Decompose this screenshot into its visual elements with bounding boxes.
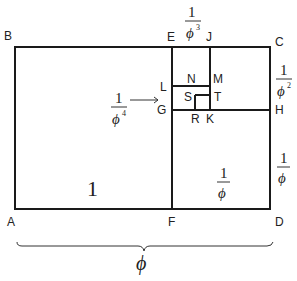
svg-text:3: 3 [196,23,200,32]
point-b: B [4,29,12,43]
point-e: E [167,30,175,44]
svg-text:ϕ: ϕ [278,170,286,186]
svg-text:1: 1 [280,62,288,78]
svg-text:1: 1 [188,4,196,20]
point-h: H [275,103,284,117]
fraction-1-over-phi: 1 ϕ [217,165,230,201]
point-g: G [157,103,166,117]
svg-text:ϕ: ϕ [218,185,226,201]
point-m: M [213,72,223,86]
point-t: T [214,90,222,104]
outer-rectangle [15,47,270,209]
point-l: L [160,80,167,94]
point-c: C [275,35,284,49]
svg-text:2: 2 [287,81,291,90]
svg-text:1: 1 [280,150,288,166]
svg-text:ϕ: ϕ [112,111,120,127]
fraction-1-over-phi-cubed: 1 ϕ 3 [185,4,201,41]
label-phi-width: ϕ [136,252,146,275]
brace-icon [17,242,273,251]
point-f: F [168,215,175,229]
point-r: R [191,112,200,126]
golden-rectangle-diagram: B E J C L N M S T G H R K A F D 1 1 ϕ 1 … [0,0,297,281]
svg-text:1: 1 [115,90,123,106]
point-j: J [206,30,212,44]
point-d: D [275,215,284,229]
fraction-1-over-phi-side: 1 ϕ [277,150,290,186]
fraction-1-over-phi-fourth: 1 ϕ 4 [111,90,127,127]
svg-text:1: 1 [220,165,228,181]
svg-text:ϕ: ϕ [277,83,285,99]
label-one: 1 [87,176,98,201]
point-k: K [206,112,214,126]
svg-text:ϕ: ϕ [186,25,194,41]
point-a: A [7,215,15,229]
fraction-1-over-phi-squared: 1 ϕ 2 [276,62,292,99]
point-n: N [187,72,196,86]
point-s: S [184,90,192,104]
svg-text:4: 4 [122,109,126,118]
arrow-icon [130,97,158,103]
